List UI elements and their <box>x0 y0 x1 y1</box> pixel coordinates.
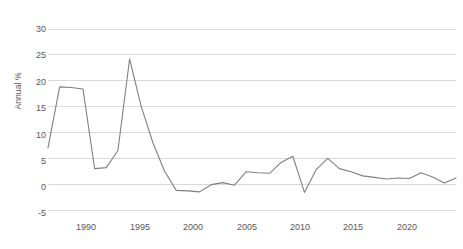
plot-area <box>0 0 463 249</box>
gridlines <box>48 29 456 210</box>
data-line-annual-pct <box>48 59 456 192</box>
line-chart: Annual % 30 25 20 15 10 5 0 -5 1990 1995… <box>0 0 463 249</box>
